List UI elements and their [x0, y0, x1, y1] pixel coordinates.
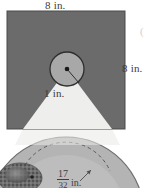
label-square-width: 8 in. [45, 0, 66, 11]
lower-texture-blob-highlight [5, 167, 29, 183]
lower-blob-center-dot [30, 175, 34, 179]
geometry-figure: 8 in. 8 in. 1 in. ( 17 32 in. [0, 0, 151, 188]
fraction-unit: in. [71, 178, 81, 188]
label-circle-radius: 1 in. [44, 88, 65, 99]
label-corner-mark: ( [140, 26, 144, 37]
light-cone-extension [15, 129, 120, 145]
figure-graphics [0, 0, 151, 188]
fraction-denominator: 32 [58, 181, 69, 189]
label-square-height: 8 in. [122, 63, 143, 74]
circle-center-dot [65, 67, 70, 72]
fraction-group: 17 32 [57, 169, 69, 188]
label-arc-measure: 17 32 in. [57, 169, 81, 188]
fraction-numerator: 17 [57, 169, 69, 179]
